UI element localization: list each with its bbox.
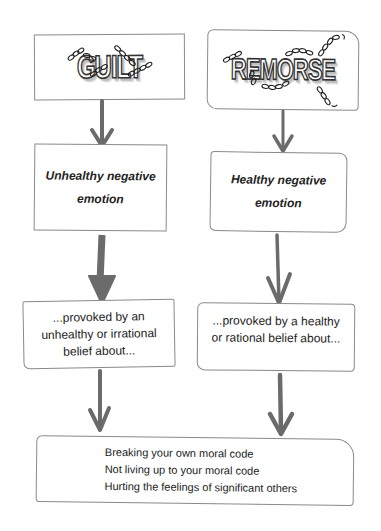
unhealthy-emotion-box: Unhealthy negative emotion — [34, 143, 168, 231]
rational-belief-line1: ...provoked by a healthy — [212, 312, 341, 330]
arrow-rational-to-outcomes — [267, 374, 295, 436]
healthy-emotion-line1: Healthy negative — [231, 168, 327, 192]
rational-belief-line2: or rational belief about... — [212, 329, 341, 347]
outcomes-list: Breaking your own moral code Not living … — [92, 444, 297, 497]
down-arrow-icon — [271, 110, 295, 152]
irrational-belief-line1: ...provoked by an — [41, 307, 157, 326]
remorse-title: REMORSE — [231, 52, 336, 88]
rational-belief-box: ...provoked by a healthy or rational bel… — [197, 302, 356, 371]
irrational-belief-box: ...provoked by an unhealthy or irrationa… — [22, 299, 175, 370]
guilt-title: GUILT — [77, 48, 142, 86]
down-arrow-icon — [90, 100, 114, 148]
unhealthy-emotion-line2: emotion — [45, 187, 155, 211]
down-arrow-icon — [266, 234, 294, 306]
outcome-item: Hurting the feelings of significant othe… — [104, 478, 297, 497]
arrow-remorse-to-healthy — [271, 110, 295, 152]
arrow-unhealthy-to-belief — [85, 234, 119, 304]
moral-code-outcomes-box: Breaking your own moral code Not living … — [36, 435, 355, 506]
remorse-title-box: REMORSE — [207, 29, 360, 111]
down-arrow-icon — [87, 370, 113, 432]
guilt-title-box: GUILT — [34, 34, 185, 101]
healthy-emotion-box: Healthy negative emotion — [209, 151, 347, 233]
irrational-belief-line2: unhealthy or irrational — [41, 324, 157, 343]
down-arrow-icon — [267, 374, 295, 436]
healthy-emotion-line2: emotion — [230, 191, 326, 215]
arrow-irrational-to-outcomes — [87, 370, 113, 432]
irrational-belief-line3: belief about... — [41, 341, 157, 360]
down-arrow-icon — [85, 234, 119, 304]
arrow-healthy-to-belief — [266, 234, 294, 306]
unhealthy-emotion-line1: Unhealthy negative — [45, 164, 155, 188]
arrow-guilt-to-unhealthy — [90, 100, 114, 148]
